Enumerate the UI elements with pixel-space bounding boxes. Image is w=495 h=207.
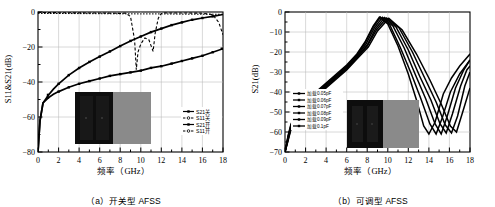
panel-a-svg: 0 −20 −40 −60 −80: [0, 0, 247, 182]
svg-text:−50: −50: [269, 108, 282, 117]
panel-a-plot: S11&S21(dB): [0, 0, 247, 182]
panel-a-legend-label-3: S11开: [196, 128, 210, 135]
panel-a-legend: S21关 S11关 S21开 S11开: [181, 107, 222, 135]
svg-text:−60: −60: [269, 128, 282, 137]
panel-b-legend-label-4: 加载0.09pF: [307, 116, 331, 123]
panel-b-caption: （b）可调型 AFSS: [247, 194, 494, 206]
panel-a-xlabel-wrap: 频率（GHz）: [0, 164, 247, 176]
panel-b-inset-photo: [347, 100, 419, 148]
panel-a: S11&S21(dB): [0, 0, 247, 207]
panel-b-legend: 加载0.05pF 加载0.06pF 加载0.07pF 加载0.08pF 加载0.…: [291, 89, 343, 130]
panel-a-xlabel: 频率（GHz）: [97, 166, 149, 176]
svg-text:−60: −60: [22, 113, 35, 122]
panel-b-yticklabels: 0 −10 −20 −30 −40 −50 −60 −70: [269, 8, 282, 157]
svg-text:0: 0: [31, 8, 35, 17]
panel-b: S21(dB): [247, 0, 494, 207]
panel-b-legend-label-3: 加载0.08pF: [307, 110, 331, 117]
panel-b-legend-label-2: 加载0.07pF: [307, 103, 331, 110]
svg-text:−20: −20: [22, 43, 35, 52]
panel-a-caption: （a）开关型 AFSS: [0, 194, 247, 206]
panel-b-xlabel: 频率（GHz）: [344, 166, 396, 176]
panel-b-svg: 0 −10 −20 −30 −40 −50 −60 −70: [247, 0, 494, 182]
svg-text:−70: −70: [269, 148, 282, 157]
panel-a-ylabel: S11&S21(dB): [3, 55, 13, 103]
panel-b-legend-label-5: 加载0.1pF: [307, 123, 329, 130]
svg-text:−80: −80: [22, 148, 35, 157]
panel-b-plot: S21(dB): [247, 0, 494, 182]
panel-b-legend-label-0: 加载0.05pF: [307, 90, 331, 97]
svg-text:−40: −40: [269, 88, 282, 97]
figure-afss-sparameters: S11&S21(dB): [0, 0, 495, 207]
svg-text:0: 0: [278, 8, 282, 17]
panel-a-yticklabels: 0 −20 −40 −60 −80: [22, 8, 35, 157]
panel-a-inset-photo: [75, 92, 151, 144]
svg-text:−20: −20: [269, 48, 282, 57]
panel-b-legend-label-1: 加载0.06pF: [307, 97, 331, 104]
svg-text:−10: −10: [269, 28, 282, 37]
svg-text:−40: −40: [22, 78, 35, 87]
panel-b-ylabel-wrap: S21(dB): [249, 0, 261, 158]
panel-b-xlabel-wrap: 频率（GHz）: [247, 164, 494, 176]
panel-b-ylabel: S21(dB): [250, 65, 260, 94]
panel-a-ylabel-wrap: S11&S21(dB): [2, 0, 14, 158]
svg-text:−30: −30: [269, 68, 282, 77]
